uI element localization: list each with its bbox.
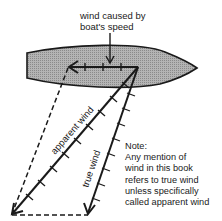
note-heading: Note: <box>125 141 209 152</box>
note-block: Note: Any mention of wind in this book r… <box>125 141 209 208</box>
boat-speed-wind-label: wind caused by boat's speed <box>80 10 145 32</box>
note-line: unless specifically <box>125 186 209 197</box>
boat-speed-wind-label-line2: boat's speed <box>80 21 145 32</box>
note-line: wind in this book <box>125 163 209 174</box>
boat-speed-wind-label-line1: wind caused by <box>80 10 145 21</box>
note-line: called apparent wind <box>125 197 209 208</box>
note-line: Any mention of <box>125 152 209 163</box>
apparent-wind-label: apparent wind <box>48 104 95 156</box>
note-line: refers to true wind <box>125 175 209 186</box>
